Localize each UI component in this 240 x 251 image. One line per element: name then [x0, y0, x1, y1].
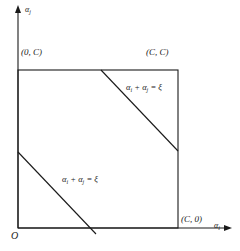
corner-label-top-left: (0, C): [21, 48, 42, 57]
corner-label-bottom-right: (C, 0): [181, 215, 202, 224]
lower-constraint-equation: αi + αj = ξ: [62, 175, 98, 184]
y-axis-label: αj: [25, 6, 31, 14]
x-axis-label: αi: [214, 222, 220, 230]
y-axis-arrow-icon: [15, 5, 21, 13]
lower-constraint-line: [18, 152, 96, 234]
figure-container: αj αi O (0, C) (C, C) (C, 0) αi + αj = ξ…: [0, 0, 240, 251]
feasible-region-box: [18, 70, 178, 228]
upper-constraint-equation: αi + αj = ξ: [126, 83, 162, 92]
x-axis-arrow-icon: [224, 225, 232, 231]
corner-label-top-right: (C, C): [146, 48, 169, 57]
origin-label: O: [11, 231, 18, 241]
diagram-canvas: [0, 0, 240, 251]
